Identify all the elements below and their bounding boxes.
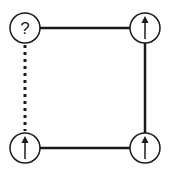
question-mark-label: ? [20,19,29,38]
node-top-right-spin-up [130,13,160,43]
plaquette-diagram: ? [0,0,170,171]
node-bottom-right-spin-up [130,133,160,163]
node-top-left-unknown: ? [10,13,40,43]
node-bottom-left-spin-up [10,133,40,163]
